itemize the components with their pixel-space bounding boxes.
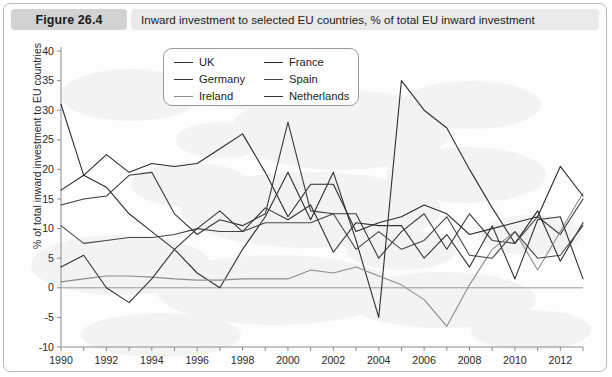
svg-text:-5: -5 bbox=[45, 311, 55, 323]
legend-label-ireland: Ireland bbox=[199, 90, 233, 102]
svg-text:35: 35 bbox=[42, 74, 54, 86]
svg-text:25: 25 bbox=[42, 133, 54, 145]
svg-text:2006: 2006 bbox=[412, 354, 436, 366]
legend-swatch-germany bbox=[174, 79, 193, 80]
figure-card: Figure 26.4 Inward investment to selecte… bbox=[3, 3, 607, 372]
legend-item-uk[interactable]: UK bbox=[174, 54, 245, 70]
svg-text:5: 5 bbox=[48, 252, 54, 264]
svg-text:0: 0 bbox=[48, 281, 54, 293]
svg-text:40: 40 bbox=[42, 45, 54, 57]
svg-text:20: 20 bbox=[42, 163, 54, 175]
legend-label-germany: Germany bbox=[199, 73, 245, 85]
svg-text:1990: 1990 bbox=[49, 354, 73, 366]
svg-text:1998: 1998 bbox=[231, 354, 255, 366]
legend-item-france[interactable]: France bbox=[264, 54, 349, 70]
y-axis-title: % of total inward investment to EU count… bbox=[31, 69, 43, 249]
figure-caption: Inward investment to selected EU countri… bbox=[131, 9, 599, 30]
chart-plot-area: -10-505101520253035401990199219941996199… bbox=[11, 35, 601, 369]
legend-swatch-uk bbox=[174, 62, 193, 63]
legend-swatch-ireland bbox=[174, 96, 193, 97]
svg-text:1996: 1996 bbox=[185, 354, 209, 366]
legend-label-uk: UK bbox=[199, 56, 215, 68]
svg-text:2000: 2000 bbox=[276, 354, 300, 366]
svg-text:1994: 1994 bbox=[140, 354, 164, 366]
svg-text:2002: 2002 bbox=[322, 354, 346, 366]
figure-header: Figure 26.4 Inward investment to selecte… bbox=[11, 9, 599, 31]
legend-label-france: France bbox=[289, 56, 324, 68]
chart-legend: UK Germany Ireland France Spai bbox=[163, 48, 359, 106]
legend-swatch-france bbox=[264, 62, 283, 63]
svg-text:2012: 2012 bbox=[549, 354, 573, 366]
legend-item-germany[interactable]: Germany bbox=[174, 71, 245, 87]
legend-swatch-netherlands bbox=[264, 96, 283, 97]
legend-label-netherlands: Netherlands bbox=[289, 90, 349, 102]
legend-item-netherlands[interactable]: Netherlands bbox=[264, 88, 349, 104]
legend-label-spain: Spain bbox=[289, 73, 318, 85]
svg-text:30: 30 bbox=[42, 104, 54, 116]
svg-text:2010: 2010 bbox=[503, 354, 527, 366]
legend-column-left: UK Germany Ireland bbox=[174, 54, 245, 105]
legend-swatch-spain bbox=[264, 79, 283, 80]
svg-text:2008: 2008 bbox=[458, 354, 482, 366]
legend-column-right: France Spain Netherlands bbox=[264, 54, 349, 105]
svg-text:2004: 2004 bbox=[367, 354, 391, 366]
svg-text:-10: -10 bbox=[39, 341, 54, 353]
svg-text:1992: 1992 bbox=[95, 354, 119, 366]
legend-item-ireland[interactable]: Ireland bbox=[174, 88, 245, 104]
figure-number-badge: Figure 26.4 bbox=[11, 9, 127, 30]
svg-text:15: 15 bbox=[42, 193, 54, 205]
legend-item-spain[interactable]: Spain bbox=[264, 71, 349, 87]
svg-text:10: 10 bbox=[42, 222, 54, 234]
